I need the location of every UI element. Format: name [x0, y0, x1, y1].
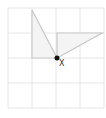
triangle-left [32, 10, 57, 58]
diagram-canvas [0, 0, 106, 118]
point-x-label: X [59, 60, 64, 68]
triangles [32, 10, 102, 58]
